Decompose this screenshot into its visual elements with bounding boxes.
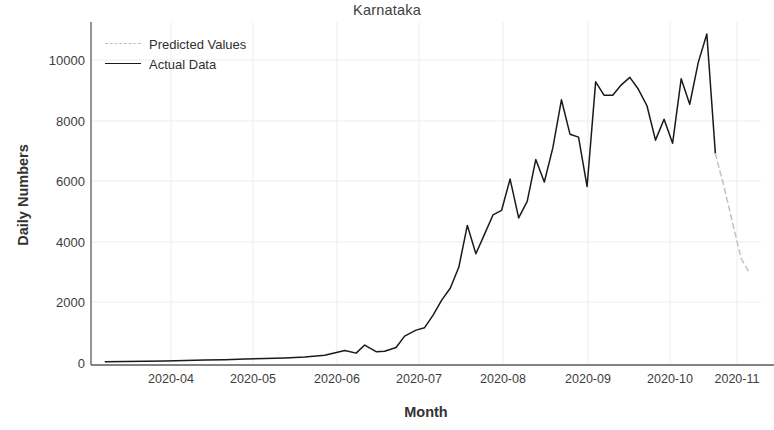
chart-figure: Karnataka Daily Numbers 0 2000 4000 6000… [0, 0, 774, 430]
legend-label-predicted-values: Predicted Values [149, 37, 246, 52]
legend-swatch-dashed-line-icon [105, 38, 141, 50]
chart-legend: Predicted Values Actual Data [99, 32, 252, 76]
series-line-actual-data [105, 34, 715, 362]
legend-swatch-solid-line-icon [105, 58, 141, 70]
legend-item-predicted-values: Predicted Values [105, 34, 246, 54]
legend-label-actual-data: Actual Data [149, 57, 216, 72]
legend-item-actual-data: Actual Data [105, 54, 246, 74]
series-line-predicted-values [715, 154, 749, 274]
